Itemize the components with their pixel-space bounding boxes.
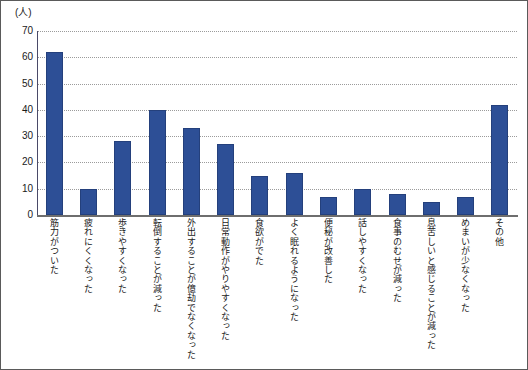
- x-axis-line: [37, 215, 518, 217]
- bar[interactable]: [251, 176, 268, 215]
- x-axis-category-label: 便秘が改善した: [323, 218, 333, 284]
- bar[interactable]: [423, 202, 440, 215]
- bar[interactable]: [183, 128, 200, 215]
- y-axis-tick-label: 30: [3, 131, 33, 141]
- x-axis-category-labels: 筋力がついた疲れにくくなった歩きやすくなった転倒することが減った外出することが億…: [37, 218, 517, 368]
- bar[interactable]: [149, 110, 166, 215]
- y-axis-unit-label: (人): [15, 7, 32, 18]
- bar[interactable]: [80, 189, 97, 215]
- y-axis-tick-label: 10: [3, 184, 33, 194]
- bar[interactable]: [354, 189, 371, 215]
- x-axis-category-label: 歩きやすくなった: [118, 218, 128, 293]
- chart-figure: (人) 706050403020100 筋力がついた疲れにくくなった歩きやすくな…: [0, 0, 528, 370]
- x-axis-category-label: 食欲がでた: [255, 218, 265, 265]
- y-axis-tick-label: 0: [3, 210, 33, 220]
- x-axis-category-label: 息苦しいと感じることが減った: [426, 218, 436, 350]
- y-axis-tick-label: 20: [3, 157, 33, 167]
- x-axis-category-label: その他: [495, 218, 505, 246]
- bar[interactable]: [389, 194, 406, 215]
- x-axis-category-label: 疲れにくくなった: [83, 218, 93, 293]
- x-axis-category-label: 転倒することが減った: [152, 218, 162, 312]
- y-axis-tick-label: 40: [3, 105, 33, 115]
- y-axis-tick-label: 60: [3, 52, 33, 62]
- bar[interactable]: [217, 144, 234, 215]
- x-axis-category-label: 外出することが億劫でなくなった: [186, 218, 196, 359]
- bar[interactable]: [491, 105, 508, 215]
- bar[interactable]: [114, 141, 131, 215]
- x-axis-category-label: 筋力がついた: [49, 218, 59, 274]
- y-axis-ticks: 706050403020100: [1, 31, 33, 215]
- x-axis-category-label: 日常動作がやりやすくなった: [221, 218, 231, 340]
- x-axis-category-label: めまいが少なくなった: [461, 218, 471, 312]
- x-axis-category-label: よく眠れるようになった: [289, 218, 299, 321]
- bar-series: [37, 31, 517, 215]
- bar[interactable]: [46, 52, 63, 215]
- bar[interactable]: [320, 197, 337, 215]
- y-axis-tick-label: 50: [3, 79, 33, 89]
- bar[interactable]: [286, 173, 303, 215]
- y-axis-tick-label: 70: [3, 26, 33, 36]
- x-axis-category-label: 食事のむせが減った: [392, 218, 402, 303]
- bar[interactable]: [457, 197, 474, 215]
- x-axis-category-label: 話しやすくなった: [358, 218, 368, 293]
